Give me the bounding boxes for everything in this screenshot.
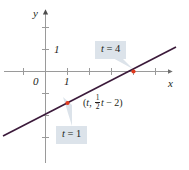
formula-minus: − — [104, 97, 115, 108]
callout-leader-t4 — [111, 57, 133, 69]
x-axis-label: x — [168, 78, 173, 89]
data-point-t4 — [131, 69, 135, 73]
origin-label: 0 — [33, 76, 39, 87]
callout-t1-eq: = — [65, 128, 76, 139]
callout-t4-eq: = — [104, 43, 115, 54]
data-point-t1 — [65, 101, 69, 105]
plot-svg — [0, 0, 189, 170]
point-formula-label: (t, 12t − 2) — [83, 94, 123, 111]
x-tick-label-1: 1 — [64, 76, 70, 87]
callout-t-equals-1: t = 1 — [56, 126, 87, 144]
formula-comma: , — [89, 97, 94, 108]
data-line — [3, 47, 176, 136]
y-axis-label: y — [33, 8, 38, 19]
formula-close: ) — [119, 97, 122, 108]
formula-frac-denominator: 2 — [95, 103, 101, 111]
callout-t4-value: 4 — [115, 43, 120, 54]
callout-t1-value: 1 — [76, 128, 81, 139]
figure-container: y x 0 1 1 t = 4 t = 1 (t, 12t − 2) — [0, 0, 189, 170]
y-tick-label-1: 1 — [54, 44, 60, 55]
formula-fraction: 12 — [95, 94, 101, 111]
callout-t-equals-4: t = 4 — [95, 41, 126, 59]
